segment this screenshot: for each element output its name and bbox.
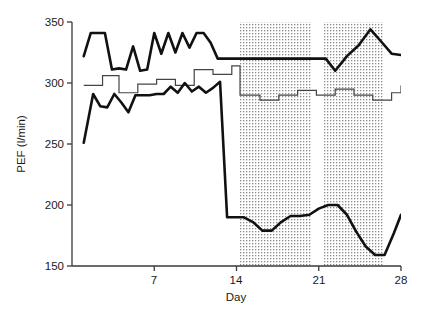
treatment-band-2 (323, 22, 383, 266)
x-tick-label-7: 7 (151, 274, 157, 286)
x-tick-label-21: 21 (313, 274, 326, 286)
pef-diary-chart: 350 300 250 200 150 7 14 21 28 Day PEF (… (0, 0, 430, 310)
y-axis-title: PEF (l/min) (15, 115, 27, 173)
x-tick-label-14: 14 (230, 274, 243, 286)
y-tick-label-300: 300 (45, 77, 64, 89)
y-tick-label-350: 350 (45, 16, 64, 28)
x-tick-label-28: 28 (395, 274, 408, 286)
y-tick-label-250: 250 (45, 138, 64, 150)
y-tick-label-200: 200 (45, 199, 64, 211)
x-axis-title: Day (226, 291, 247, 303)
y-tick-label-150: 150 (45, 260, 64, 272)
chart-svg: 350 300 250 200 150 7 14 21 28 Day PEF (… (0, 0, 430, 310)
